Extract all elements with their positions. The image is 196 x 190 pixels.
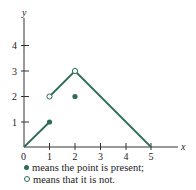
x-tick-label: 4 xyxy=(124,151,129,162)
y-ticks: 1 2 3 4 xyxy=(12,40,29,128)
filled-point xyxy=(47,119,52,124)
y-tick-label: 2 xyxy=(12,91,17,102)
open-dot-icon xyxy=(24,176,30,182)
y-tick-label: 1 xyxy=(12,117,17,128)
y-tick-label: 4 xyxy=(12,40,17,51)
segment-2 xyxy=(50,71,76,97)
open-point xyxy=(72,68,77,73)
legend-open: means that it is not. xyxy=(24,174,115,186)
x-axis-label: x xyxy=(180,141,186,152)
graph-lines xyxy=(24,71,151,147)
x-tick-label: 5 xyxy=(149,151,154,162)
legend-text: means that it is not. xyxy=(33,174,115,185)
y-tick-label: 3 xyxy=(12,66,17,77)
filled-dot-icon xyxy=(24,165,29,170)
x-tick-label: 3 xyxy=(98,151,103,162)
x-tick-label: 2 xyxy=(73,151,78,162)
legend-text: means the point is present; xyxy=(32,162,144,173)
x-tick-label: 0 xyxy=(21,151,26,162)
legend-filled: means the point is present; xyxy=(24,162,144,174)
filled-point xyxy=(72,94,77,99)
x-tick-label: 1 xyxy=(47,151,52,162)
y-axis-label: y xyxy=(21,7,27,18)
segment-3 xyxy=(75,71,151,147)
x-ticks: 0 1 2 3 4 5 xyxy=(21,143,154,162)
open-point xyxy=(47,94,52,99)
segment-1 xyxy=(24,122,50,147)
